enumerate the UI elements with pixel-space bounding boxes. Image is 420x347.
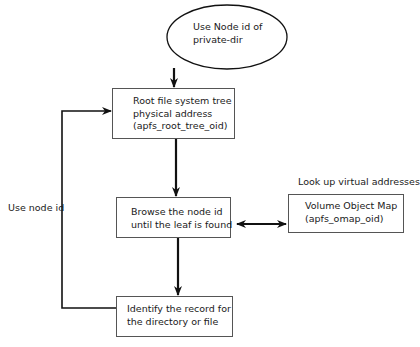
- browse-line: until the leaf is found: [131, 219, 224, 232]
- root-tree-box: Root file system tree physical address (…: [112, 88, 235, 139]
- browse-line: Browse the node id: [131, 206, 224, 219]
- arrow-loop-identify-to-root: [62, 111, 116, 308]
- identify-line: the directory or file: [127, 316, 228, 329]
- omap-line: Volume Object Map: [305, 200, 397, 213]
- root-tree-line: Root file system tree: [133, 95, 224, 108]
- start-node: Use Node id of private-dir: [193, 21, 262, 46]
- omap-line: (apfs_omap_oid): [305, 213, 397, 226]
- start-node-line: private-dir: [193, 34, 262, 47]
- start-node-line: Use Node id of: [193, 21, 262, 34]
- root-tree-line: (apfs_root_tree_oid): [133, 120, 224, 133]
- identify-box: Identify the record for the directory or…: [116, 296, 233, 337]
- identify-line: Identify the record for: [127, 303, 228, 316]
- use-node-id-label: Use node id: [8, 202, 64, 213]
- omap-box: Volume Object Map (apfs_omap_oid): [288, 194, 404, 233]
- root-tree-line: physical address: [133, 108, 224, 121]
- browse-box: Browse the node id until the leaf is fou…: [116, 197, 231, 238]
- lookup-label: Look up virtual addresses: [298, 176, 420, 187]
